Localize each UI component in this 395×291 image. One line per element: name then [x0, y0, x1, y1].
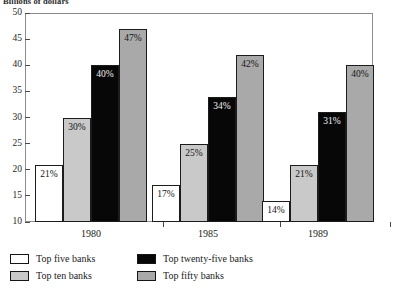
x-axis-tick — [163, 222, 164, 227]
legend-item: Top fifty banks — [137, 270, 310, 281]
y-axis-tick-label: 25 — [0, 139, 22, 149]
y-axis-tick — [25, 169, 30, 170]
legend-item: Top ten banks — [10, 270, 120, 281]
x-axis-category-label: 1989 — [278, 228, 358, 239]
y-axis-tick — [25, 143, 30, 144]
y-axis-tick — [25, 91, 30, 92]
legend-item: Top five banks — [10, 253, 120, 264]
legend-swatch — [137, 271, 156, 281]
legend-label: Top fifty banks — [163, 270, 224, 281]
y-axis-tick — [25, 195, 30, 196]
legend-swatch — [137, 254, 156, 264]
y-axis-tick-label: 35 — [0, 86, 22, 96]
y-axis-tick — [25, 117, 30, 118]
y-axis-tick — [25, 39, 30, 40]
x-axis-tick — [280, 222, 281, 227]
chart-legend: Top five banksTop twenty-five banksTop t… — [10, 250, 310, 284]
x-axis-tick — [390, 222, 391, 227]
y-axis-tick-label: 15 — [0, 191, 22, 201]
legend-swatch — [10, 254, 29, 264]
y-axis-tick-label: 10 — [0, 217, 22, 227]
y-axis-tick-label: 40 — [0, 60, 22, 70]
y-axis-tick — [25, 65, 30, 66]
y-axis-tick-label: 50 — [0, 8, 22, 18]
y-axis-tick-label: 45 — [0, 34, 22, 44]
y-axis-tick — [25, 222, 30, 223]
legend-label: Top five banks — [36, 253, 95, 264]
y-axis-tick-label: 30 — [0, 113, 22, 123]
legend-item: Top twenty-five banks — [137, 253, 310, 264]
y-axis: 101520253035404550 — [0, 0, 22, 291]
legend-swatch — [10, 271, 29, 281]
y-axis-tick — [25, 13, 30, 14]
legend-label: Top ten banks — [36, 270, 92, 281]
x-axis-category-label: 1980 — [51, 228, 131, 239]
x-axis-category-label: 1985 — [168, 228, 248, 239]
legend-label: Top twenty-five banks — [163, 253, 253, 264]
y-axis-tick-label: 20 — [0, 165, 22, 175]
plot-area — [25, 13, 373, 222]
